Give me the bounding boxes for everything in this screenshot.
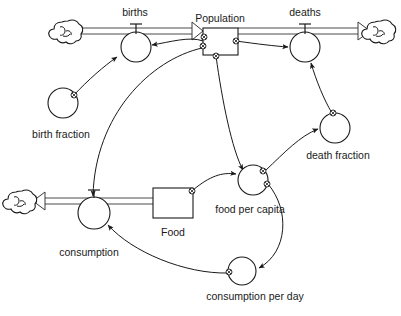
diagram-canvas: births Population deaths birth fraction … <box>0 0 401 316</box>
label-food-per-capita: food per capita <box>215 203 285 215</box>
port-population-consumption <box>200 43 206 49</box>
link-food-to-foodpercapita <box>193 174 236 190</box>
cloud-deaths-sink <box>362 20 396 44</box>
label-birth-fraction: birth fraction <box>32 128 90 140</box>
link-population-to-deaths <box>236 41 288 47</box>
label-death-fraction: death fraction <box>306 149 370 161</box>
port-population-deaths <box>233 38 239 44</box>
port-population-foodpercapita <box>213 53 219 59</box>
link-foodpercapita-to-consumptionperday <box>259 184 283 268</box>
port-birthfraction-out <box>71 92 77 98</box>
port-deathfraction-out <box>330 110 336 116</box>
flow-births[interactable] <box>121 24 151 62</box>
port-food-out <box>189 188 195 194</box>
link-deathfraction-to-deaths <box>311 63 332 113</box>
label-population: Population <box>195 12 245 24</box>
link-population-to-foodpercapita <box>216 56 243 170</box>
cloud-births-source <box>49 20 83 44</box>
label-births: births <box>122 6 148 18</box>
port-consumptionperday-out <box>226 269 232 275</box>
label-consumption-per-day: consumption per day <box>206 290 304 302</box>
port-population-births <box>201 34 207 40</box>
flow-deaths[interactable] <box>290 24 320 62</box>
port-foodpercapita-deathfraction <box>260 168 266 174</box>
flow-consumption[interactable] <box>78 190 110 229</box>
stock-food[interactable] <box>153 188 193 218</box>
label-consumption: consumption <box>59 246 119 258</box>
link-population-to-births <box>152 39 203 45</box>
label-food: Food <box>161 226 185 238</box>
label-deaths: deaths <box>289 6 321 18</box>
aux-death-fraction[interactable] <box>320 113 350 143</box>
link-birthfraction-to-births <box>74 57 117 95</box>
port-foodpercapita-consumptionperday <box>264 181 270 187</box>
cloud-consumption-sink <box>3 190 37 214</box>
link-population-to-consumption <box>93 48 202 196</box>
stock-flow-diagram: births Population deaths birth fraction … <box>0 0 401 316</box>
